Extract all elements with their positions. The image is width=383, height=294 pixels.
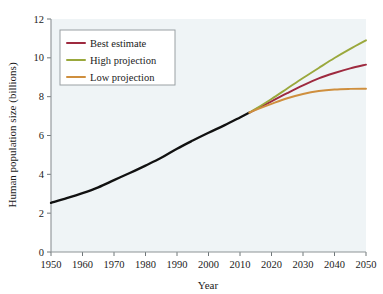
legend-label: Low projection: [90, 72, 155, 83]
legend-label: Best estimate: [90, 38, 147, 49]
y-tick-label: 12: [34, 14, 45, 25]
y-tick-label: 6: [39, 130, 44, 141]
y-tick-label: 4: [39, 169, 45, 180]
x-tick-label: 1970: [104, 259, 125, 270]
y-tick-label: 0: [39, 247, 44, 258]
x-tick-label: 2040: [324, 259, 345, 270]
x-tick-label: 2000: [198, 259, 219, 270]
y-tick-label: 8: [39, 91, 44, 102]
x-tick-label: 1990: [167, 259, 188, 270]
x-tick-label: 2030: [293, 259, 314, 270]
x-tick-label: 2020: [261, 259, 282, 270]
chart-legend: Best estimateHigh projectionLow projecti…: [60, 30, 175, 85]
y-tick-label: 2: [39, 208, 44, 219]
x-tick-label: 1960: [72, 259, 93, 270]
legend-label: High projection: [90, 55, 157, 66]
x-tick-label: 1950: [41, 259, 62, 270]
x-tick-label: 2010: [230, 259, 251, 270]
y-axis-title: Human population size (billions): [6, 62, 19, 207]
x-tick-label: 1980: [135, 259, 156, 270]
x-tick-label: 2050: [356, 259, 377, 270]
y-tick-label: 10: [34, 52, 45, 63]
x-axis-title: Year: [198, 279, 219, 291]
chart-svg: 024681012 195019601970198019902000201020…: [0, 0, 383, 294]
population-projection-chart: 024681012 195019601970198019902000201020…: [0, 0, 383, 294]
